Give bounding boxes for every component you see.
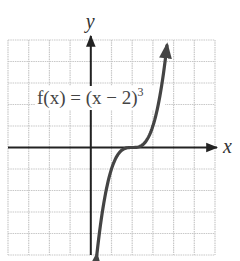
function-graph: x y f(x) = (x − 2)3 (0, 0, 240, 261)
y-axis-label: y (84, 10, 95, 33)
function-equation-label: f(x) = (x − 2)3 (37, 85, 144, 109)
x-axis-label: x (222, 135, 232, 157)
